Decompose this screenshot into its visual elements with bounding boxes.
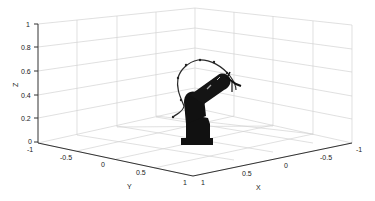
y-tick-0.5: 0.5: [136, 169, 146, 176]
z-tick-0: 0: [28, 138, 32, 145]
y-tick--0.5: -0.5: [60, 154, 72, 161]
robot-3d-plot: 1 0.8 0.6 0.4 0.2 0 Z -1 -0.5 0 0.5 1 Y …: [0, 0, 375, 201]
y-tick-0: 0: [101, 161, 105, 168]
z-tick-0.8: 0.8: [21, 44, 31, 51]
x-tick--1: -1: [356, 146, 362, 153]
z-tick-0.4: 0.4: [21, 92, 31, 99]
z-tick-0.2: 0.2: [21, 115, 31, 122]
z-axis-label: Z: [12, 82, 19, 87]
y-axis-label: Y: [127, 183, 132, 190]
y-tick--1: -1: [27, 146, 33, 153]
z-tick-1: 1: [26, 21, 30, 28]
y-tick-1: 1: [183, 179, 187, 186]
x-tick-0.5: 0.5: [242, 170, 252, 177]
x-tick-0: 0: [284, 162, 288, 169]
z-tick-0.6: 0.6: [21, 68, 31, 75]
x-tick--0.5: -0.5: [320, 154, 332, 161]
x-tick-1: 1: [201, 179, 205, 186]
x-axis-label: X: [256, 184, 261, 191]
